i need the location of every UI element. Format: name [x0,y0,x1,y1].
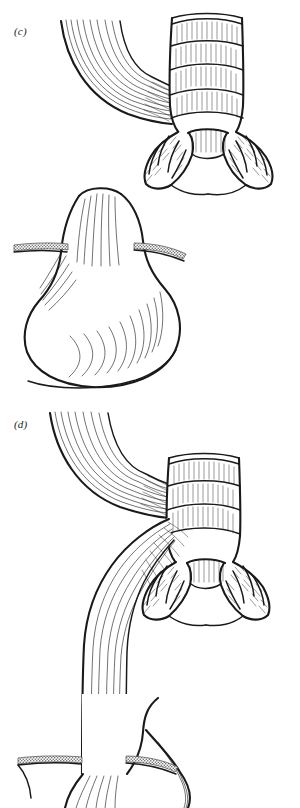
panel-d-drawing [0,400,300,808]
trachea [170,14,244,134]
figure-container: (c) [0,0,300,808]
lower-esophagus-and-stomach [24,188,181,388]
carina-and-bronchi [142,559,269,625]
carina-and-bronchi [144,129,272,194]
upper-esophageal-pouch [42,412,171,528]
upper-esophageal-pouch [52,20,174,133]
trachea [167,454,241,564]
panel-d: (d) [0,400,300,808]
panel-c-drawing [0,0,300,400]
stomach [64,694,190,808]
panel-c: (c) [0,0,300,400]
